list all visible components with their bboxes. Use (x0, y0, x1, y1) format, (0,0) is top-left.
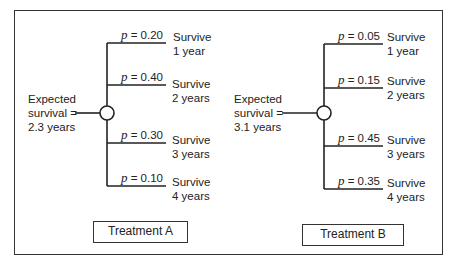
tree-a-outcome-4: Survive4 years (172, 175, 210, 203)
tree-b-expected-label: Expected survival = 3.1 years (234, 92, 283, 134)
tree-b-outcome-1: Survive1 year (387, 30, 425, 58)
tree-b-outcome-4: Survive4 years (387, 176, 425, 204)
tree-a-prob-4: p = 0.10 (121, 171, 163, 185)
tree-b-outcome-2: Survive2 years (387, 74, 425, 102)
tree-b-prob-4: p = 0.35 (338, 174, 380, 188)
tree-b-prob-1: p = 0.05 (338, 29, 380, 43)
tree-b-prob-3: p = 0.45 (338, 131, 380, 145)
tree-a-outcome-2: Survive2 years (172, 77, 210, 105)
tree-a-prob-3: p = 0.30 (121, 128, 163, 142)
tree-a-outcome-3: Survive3 years (172, 133, 210, 161)
tree-a-title-box: Treatment A (93, 221, 188, 243)
tree-a-outcome-1: Survive1 year (173, 30, 211, 58)
tree-a-prob-1: p = 0.20 (121, 28, 163, 42)
tree-b-prob-2: p = 0.15 (338, 73, 380, 87)
tree-b-chance-node (317, 106, 331, 120)
tree-a-prob-2: p = 0.40 (121, 70, 163, 84)
tree-a-chance-node (100, 106, 114, 120)
tree-a-expected-label: Expected survival = 2.3 years (28, 92, 77, 134)
tree-b-title-box: Treatment B (302, 224, 404, 246)
tree-b-outcome-3: Survive3 years (387, 133, 425, 161)
